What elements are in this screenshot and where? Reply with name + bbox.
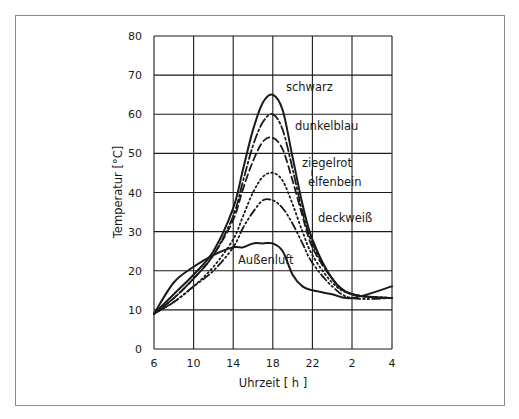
y-tick-label: 40 [128, 187, 142, 200]
x-axis-label: Uhrzeit [ h ] [239, 376, 307, 390]
x-tick-label: 10 [187, 357, 201, 370]
x-axis-ticks: 61014182224 [151, 357, 396, 370]
y-tick-label: 80 [128, 30, 142, 43]
y-axis-label: Temperatur [°C] [111, 146, 125, 239]
x-tick-label: 6 [151, 357, 158, 370]
y-tick-label: 0 [135, 343, 142, 356]
x-tick-label: 2 [349, 357, 356, 370]
y-tick-label: 30 [128, 226, 142, 239]
x-tick-label: 14 [226, 357, 240, 370]
label-schwarz: schwarz [286, 80, 333, 94]
y-axis-ticks: 01020304050607080 [128, 30, 142, 356]
x-tick-label: 18 [266, 357, 280, 370]
y-tick-label: 10 [128, 304, 142, 317]
y-tick-label: 60 [128, 108, 142, 121]
x-tick-label: 4 [389, 357, 396, 370]
label-elfenbein: elfenbein [308, 175, 362, 189]
x-tick-label: 22 [305, 357, 319, 370]
temperature-chart: 01020304050607080 61014182224 Temperatur… [0, 0, 519, 419]
label-dunkelblau: dunkelblau [295, 119, 358, 133]
label-aussenluft: Außenluft [238, 253, 294, 267]
grid [154, 36, 392, 349]
y-tick-label: 70 [128, 69, 142, 82]
label-deckweiss: deckweiß [318, 211, 372, 225]
label-ziegelrot: ziegelrot [302, 156, 352, 170]
y-tick-label: 20 [128, 265, 142, 278]
y-tick-label: 50 [128, 147, 142, 160]
